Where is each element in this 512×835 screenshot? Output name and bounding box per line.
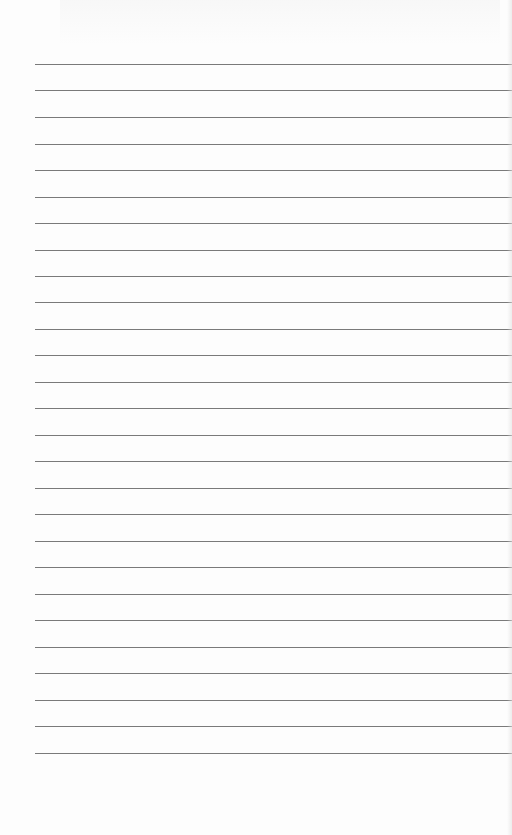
ruled-line	[35, 726, 512, 727]
ruled-line	[35, 541, 512, 542]
ruled-line	[35, 700, 512, 701]
ruled-line	[35, 594, 512, 595]
ruled-line	[35, 567, 512, 568]
ruled-line	[35, 197, 512, 198]
ruled-line	[35, 329, 512, 330]
ruled-line	[35, 276, 512, 277]
ruled-line	[35, 382, 512, 383]
ruled-line	[35, 144, 512, 145]
ruled-line	[35, 250, 512, 251]
ruled-line	[35, 408, 512, 409]
ruled-line	[35, 355, 512, 356]
ruled-line	[35, 435, 512, 436]
ruled-page	[0, 0, 512, 835]
page-edge-shadow	[507, 0, 512, 835]
ruled-line	[35, 170, 512, 171]
show-through-texture	[60, 0, 500, 45]
ruled-line	[35, 488, 512, 489]
ruled-line	[35, 647, 512, 648]
ruled-line	[35, 461, 512, 462]
ruled-line	[35, 223, 512, 224]
ruled-line	[35, 753, 512, 754]
ruled-line	[35, 620, 512, 621]
ruled-line	[35, 64, 512, 65]
ruled-line	[35, 90, 512, 91]
ruled-line	[35, 673, 512, 674]
ruled-line	[35, 117, 512, 118]
ruled-line	[35, 302, 512, 303]
ruled-line	[35, 514, 512, 515]
